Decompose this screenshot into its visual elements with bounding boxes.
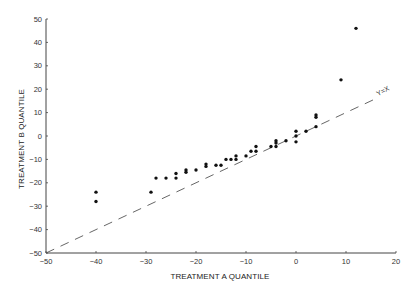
data-point	[164, 176, 167, 179]
data-point	[254, 150, 257, 153]
data-point	[154, 176, 157, 179]
data-point	[294, 140, 297, 143]
y-tick-label: −20	[29, 178, 42, 187]
data-point	[294, 130, 297, 133]
data-point	[234, 158, 237, 161]
x-tick-label: −10	[240, 257, 253, 266]
data-point	[174, 176, 177, 179]
x-tick-label: −30	[140, 257, 153, 266]
data-point	[94, 190, 97, 193]
qq-plot: −50−40−30−20−1001020−50−40−30−20−1001020…	[0, 0, 414, 292]
data-point	[94, 200, 97, 203]
data-point	[274, 145, 277, 148]
y-equals-x-line	[46, 97, 379, 253]
x-tick-label: 10	[342, 257, 350, 266]
data-point	[204, 165, 207, 168]
y-tick-label: −50	[29, 249, 42, 258]
data-point	[284, 139, 287, 142]
data-point	[294, 134, 297, 137]
data-point	[224, 158, 227, 161]
data-point	[354, 27, 357, 30]
reference-line-label: Y=X	[375, 84, 390, 97]
data-point	[304, 130, 307, 133]
reference-line-y-equals-x	[46, 97, 379, 253]
y-axis-title: TREATMENT B QUANTILE	[17, 89, 26, 189]
x-tick-label: −20	[190, 257, 203, 266]
y-tick-label: 10	[34, 108, 42, 117]
data-point	[174, 172, 177, 175]
data-point	[149, 190, 152, 193]
y-tick-label: 0	[38, 132, 42, 141]
x-tick-label: 20	[392, 257, 400, 266]
y-tick-label: −40	[29, 225, 42, 234]
data-point	[254, 145, 257, 148]
data-point	[249, 150, 252, 153]
data-point	[244, 154, 247, 157]
y-tick-label: −30	[29, 202, 42, 211]
x-tick-label: −50	[40, 257, 53, 266]
data-point	[314, 116, 317, 119]
data-point	[274, 141, 277, 144]
data-point	[184, 171, 187, 174]
data-point	[314, 125, 317, 128]
y-tick-label: 20	[34, 85, 42, 94]
data-point	[194, 168, 197, 171]
x-tick-label: −40	[90, 257, 103, 266]
y-tick-label: −10	[29, 155, 42, 164]
data-points	[94, 27, 357, 204]
y-tick-label: 50	[34, 15, 42, 24]
data-point	[339, 78, 342, 81]
data-point	[269, 145, 272, 148]
data-point	[229, 158, 232, 161]
data-point	[214, 164, 217, 167]
data-point	[234, 154, 237, 157]
axes: −50−40−30−20−1001020−50−40−30−20−1001020…	[29, 15, 400, 266]
x-axis-title: TREATMENT A QUANTILE	[170, 272, 269, 281]
y-tick-label: 30	[34, 61, 42, 70]
x-tick-label: 0	[294, 257, 298, 266]
y-tick-label: 40	[34, 38, 42, 47]
data-point	[219, 164, 222, 167]
